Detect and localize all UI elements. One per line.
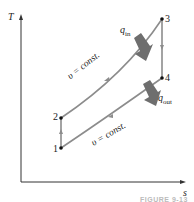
q-in-label: qin: [120, 25, 130, 38]
state-4-label: 4: [165, 73, 170, 83]
state-1-label: 1: [53, 144, 58, 154]
q-out-label: qout: [158, 93, 172, 106]
state-3-label: 3: [165, 14, 170, 24]
q-in-arrow: [134, 33, 153, 61]
figure-caption: FIGURE 9-13: [140, 196, 188, 202]
y-axis-label: T: [8, 12, 14, 22]
ts-diagram: T s 1 2 3 4 qin qout υ = const. υ = cons…: [0, 0, 194, 202]
state-2-label: 2: [53, 112, 58, 122]
